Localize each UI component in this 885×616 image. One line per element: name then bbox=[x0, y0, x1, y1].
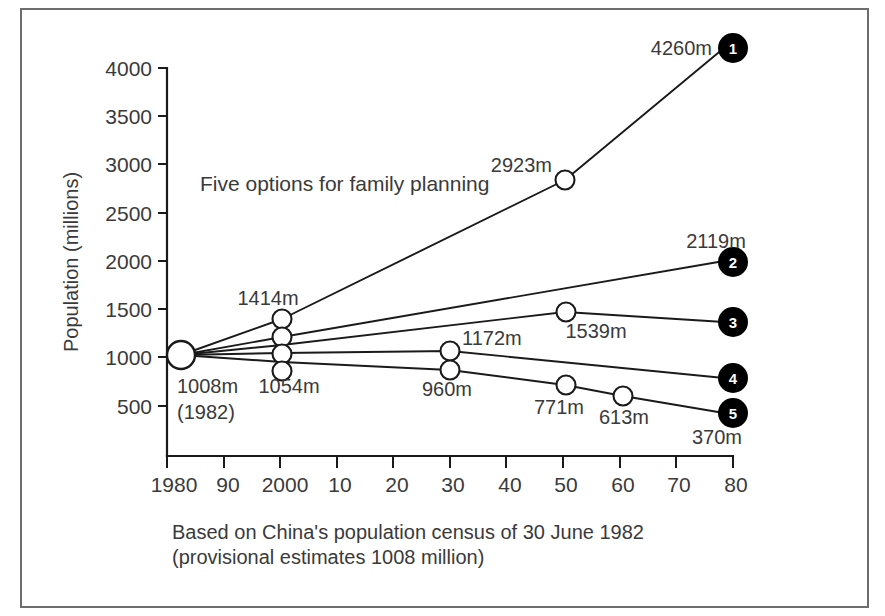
end-marker-label-2: 2 bbox=[729, 254, 737, 271]
x-label-40: 40 bbox=[498, 473, 521, 496]
x-label-60: 60 bbox=[611, 473, 634, 496]
value-annotations: 4260m 2923m 2119m 1539m 1414m 1172m 1054… bbox=[177, 37, 746, 448]
x-label-30: 30 bbox=[441, 473, 464, 496]
annotation-771m: 771m bbox=[534, 396, 584, 418]
annotation-613m: 613m bbox=[599, 406, 649, 428]
annotation-960m: 960m bbox=[422, 378, 472, 400]
end-marker-option-5[interactable]: 5 bbox=[718, 398, 748, 428]
data-point-2060-option-5[interactable] bbox=[614, 387, 633, 406]
chart-inner-note: Five options for family planning bbox=[200, 172, 489, 195]
annotation-1982: (1982) bbox=[177, 401, 235, 423]
annotation-370m: 370m bbox=[692, 426, 742, 448]
x-label-80: 80 bbox=[724, 473, 747, 496]
data-point-2000-option-1[interactable] bbox=[273, 310, 292, 329]
figure-container: 4000 3500 3000 2500 2000 1500 1000 500 P… bbox=[0, 0, 885, 616]
y-label-2500: 2500 bbox=[105, 202, 152, 225]
annotation-2923m: 2923m bbox=[491, 154, 552, 176]
x-label-10: 10 bbox=[328, 473, 351, 496]
data-point-2050-option-3[interactable] bbox=[557, 303, 576, 322]
annotation-4260m: 4260m bbox=[651, 37, 712, 59]
y-label-4000: 4000 bbox=[105, 57, 152, 80]
y-label-2000: 2000 bbox=[105, 250, 152, 273]
y-axis-title: Population (millions) bbox=[60, 172, 82, 352]
y-label-1500: 1500 bbox=[105, 298, 152, 321]
data-point-2050-option-1[interactable] bbox=[556, 171, 575, 190]
annotation-2119m: 2119m bbox=[686, 230, 746, 252]
annotation-1172m: 1172m bbox=[462, 327, 522, 349]
x-label-70: 70 bbox=[667, 473, 690, 496]
end-marker-label-5: 5 bbox=[729, 405, 737, 422]
end-marker-label-1: 1 bbox=[729, 40, 737, 57]
annotation-1008m: 1008m bbox=[177, 375, 238, 397]
end-marker-label-3: 3 bbox=[729, 314, 737, 331]
caption-line-2: (provisional estimates 1008 million) bbox=[172, 546, 484, 568]
caption-line-1: Based on China's population census of 30… bbox=[172, 521, 644, 543]
data-point-2050-option-5[interactable] bbox=[557, 376, 576, 395]
end-marker-option-4[interactable]: 4 bbox=[718, 363, 748, 393]
y-label-500: 500 bbox=[117, 395, 152, 418]
y-label-3500: 3500 bbox=[105, 105, 152, 128]
figure-caption: Based on China's population census of 30… bbox=[172, 521, 644, 568]
annotation-1414m: 1414m bbox=[237, 287, 298, 309]
x-label-1980: 1980 bbox=[151, 473, 198, 496]
x-label-90: 90 bbox=[216, 473, 239, 496]
y-label-1000: 1000 bbox=[105, 346, 152, 369]
y-label-3000: 3000 bbox=[105, 153, 152, 176]
x-axis-tick-labels: 1980 90 2000 10 20 30 40 50 60 70 80 bbox=[151, 473, 748, 496]
x-label-2000: 2000 bbox=[262, 473, 309, 496]
data-point-origin-1008m[interactable] bbox=[167, 341, 195, 369]
annotation-1054m: 1054m bbox=[258, 375, 319, 397]
end-marker-option-1[interactable]: 1 bbox=[718, 33, 748, 63]
x-axis-ticks bbox=[167, 456, 733, 468]
population-projection-chart: 4000 3500 3000 2500 2000 1500 1000 500 P… bbox=[0, 0, 885, 616]
data-point-2030-option-5[interactable] bbox=[441, 361, 460, 380]
x-label-20: 20 bbox=[385, 473, 408, 496]
annotation-1539m: 1539m bbox=[565, 320, 626, 342]
x-label-50: 50 bbox=[554, 473, 577, 496]
end-marker-option-3[interactable]: 3 bbox=[718, 307, 748, 337]
end-marker-label-4: 4 bbox=[729, 370, 738, 387]
y-axis-ticks bbox=[158, 68, 167, 406]
y-axis-tick-labels: 4000 3500 3000 2500 2000 1500 1000 500 bbox=[105, 57, 152, 418]
data-point-2030-option-4[interactable] bbox=[441, 342, 460, 361]
